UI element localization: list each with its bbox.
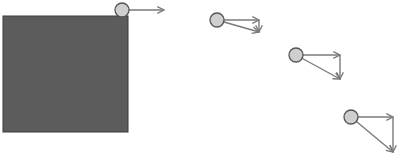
ball <box>289 48 303 62</box>
ball <box>210 13 224 27</box>
ball-position-4 <box>344 110 393 152</box>
ball-positions <box>115 3 393 152</box>
ball-position-2 <box>210 13 259 32</box>
ball-position-3 <box>289 48 340 79</box>
ball-position-1 <box>115 3 164 17</box>
projectile-diagram <box>0 0 397 157</box>
ball <box>344 110 358 124</box>
block <box>3 16 128 132</box>
ball <box>115 3 129 17</box>
resultant-velocity-arrow <box>351 117 393 152</box>
